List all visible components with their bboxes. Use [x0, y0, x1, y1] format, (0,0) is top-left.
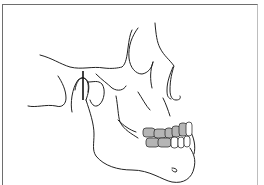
lower-incisor [184, 136, 190, 147]
cheekbone-arc [151, 62, 153, 88]
upper-incisor [186, 122, 192, 136]
skull-jaw-diagram: Lateral view of skull and mandible line … [0, 0, 264, 185]
coronoid-process [96, 74, 126, 90]
lower-premolar-1 [171, 137, 178, 148]
zygomatic-arch-line [40, 30, 132, 68]
glenoid-fossa [75, 78, 88, 92]
upper-teeth [143, 122, 192, 138]
orbit-rim [129, 28, 153, 74]
upper-molar-1 [143, 128, 155, 137]
face-profile [155, 23, 180, 100]
articular-eminence [88, 82, 104, 107]
mental-foramen [172, 168, 177, 172]
maxilla-line [138, 92, 150, 110]
cheek-line [163, 98, 170, 116]
lower-premolar-2 [178, 137, 184, 148]
lower-molar-2 [158, 138, 171, 147]
lower-teeth [146, 136, 190, 148]
upper-molar-2 [154, 129, 166, 138]
ear-region-line [28, 76, 66, 107]
condyle-outline [71, 78, 89, 112]
lower-molar-1 [146, 138, 159, 147]
skull-illustration [0, 0, 264, 185]
